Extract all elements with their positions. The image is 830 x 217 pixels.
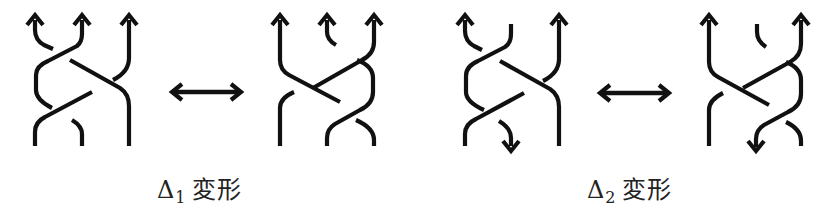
caption-subscript: 2 — [605, 188, 616, 207]
caption-delta2: Δ2変形 — [587, 170, 672, 207]
braid-diagram-delta1-right — [272, 15, 382, 146]
braid-diagram-delta1-left — [27, 15, 137, 146]
double-arrow-delta1 — [172, 84, 241, 100]
caption-subscript: 1 — [175, 188, 186, 207]
braid-figure — [0, 0, 830, 217]
caption-text: 変形 — [622, 176, 672, 204]
braid-diagram-delta2-left — [457, 15, 567, 151]
double-arrow-delta2 — [600, 85, 669, 101]
caption-text: 変形 — [192, 176, 242, 204]
caption-symbol: Δ — [157, 176, 175, 204]
braid-diagram-delta2-right — [701, 15, 809, 151]
caption-delta1: Δ1変形 — [157, 170, 242, 207]
caption-symbol: Δ — [587, 176, 605, 204]
